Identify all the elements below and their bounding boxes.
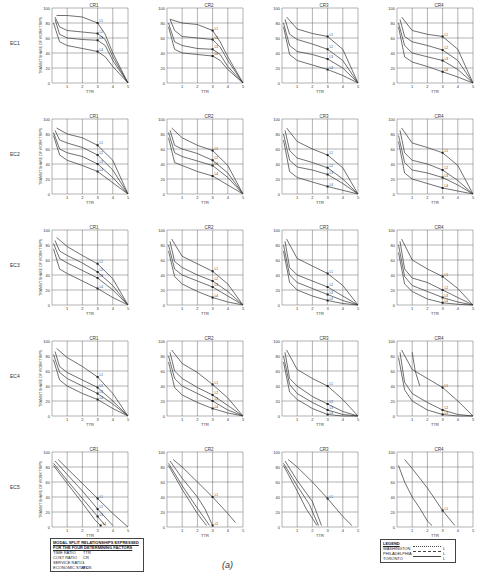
x-tick-label: 1 [181, 195, 184, 200]
chart-panel: 02040608010012345TTRTRANSIT SHARE OF WOR… [32, 226, 127, 321]
series-line [55, 461, 113, 526]
chart-panel: 02040608010012345TTRCR2L1L2L3L4 [147, 337, 242, 432]
series-line [54, 136, 129, 195]
y-tick-label: 100 [43, 450, 50, 455]
y-tick-label: 60 [46, 369, 51, 374]
data-marker [442, 387, 444, 389]
x-tick-label: 5 [472, 84, 475, 89]
x-tick-label: 2 [311, 84, 314, 89]
data-marker [327, 186, 329, 188]
x-tick-label: 1 [411, 417, 414, 422]
row-label: EC5 [10, 484, 20, 490]
series-label: L3 [215, 283, 219, 287]
x-tick-label: 2 [426, 306, 429, 311]
y-tick-label: 80 [46, 465, 51, 470]
series-line [285, 352, 358, 416]
series-label: L1 [215, 493, 219, 497]
series-line [399, 136, 474, 195]
y-tick-label: 100 [273, 339, 280, 344]
y-tick-label: 60 [391, 369, 396, 374]
y-tick-label: 100 [388, 228, 395, 233]
data-marker [97, 171, 99, 173]
chart-title: CR3 [319, 336, 328, 341]
y-tick-label: 100 [388, 339, 395, 344]
data-marker [97, 22, 99, 24]
x-tick-label: 5 [127, 528, 130, 533]
row-label: EC1 [10, 40, 20, 46]
chart-title: CR2 [204, 225, 213, 230]
x-tick-label: 4 [112, 84, 115, 89]
data-marker [97, 263, 99, 265]
series-label: L4 [445, 299, 449, 303]
y-tick-label: 20 [46, 288, 51, 293]
data-marker [442, 36, 444, 38]
y-tick-label: 40 [46, 495, 51, 500]
y-tick-label: 40 [161, 162, 166, 167]
legend-entry: TORONTOL [383, 556, 453, 561]
chart-title: CR1 [89, 225, 98, 230]
y-tick-label: 40 [391, 162, 396, 167]
series-line [55, 19, 128, 83]
y-tick-label: 20 [391, 177, 396, 182]
y-tick-label: 100 [273, 117, 280, 122]
y-tick-label: 80 [276, 354, 281, 359]
x-tick-label: 4 [457, 417, 460, 422]
chart-panel: 02040608010012345TTRCR2L1L2L3L4 [147, 4, 242, 99]
series-line [169, 133, 244, 195]
y-tick-label: 0 [163, 81, 166, 86]
y-tick-label: 60 [161, 36, 166, 41]
x-tick-label: 4 [227, 306, 230, 311]
x-axis-label: TTR [431, 533, 439, 538]
series-label: L1 [445, 507, 449, 511]
series-label: L4 [215, 294, 219, 298]
x-tick-label: 5 [357, 417, 360, 422]
x-tick-label: 1 [296, 84, 299, 89]
x-tick-label: 2 [426, 84, 429, 89]
y-tick-label: 40 [46, 273, 51, 278]
x-axis-label: TTR [316, 200, 324, 205]
series-line [169, 27, 244, 83]
series-label: L3 [330, 291, 334, 295]
series-label: L1 [215, 147, 219, 151]
y-tick-label: 100 [43, 228, 50, 233]
chart-title: CR2 [204, 447, 213, 452]
x-tick-label: 1 [411, 195, 414, 200]
chart-title: CR1 [89, 3, 98, 8]
chart-title: CR4 [434, 336, 443, 341]
series-label: L2 [100, 30, 104, 34]
y-tick-label: 20 [391, 399, 396, 404]
x-tick-label: 4 [342, 195, 345, 200]
series-label: L1 [100, 373, 104, 377]
series-line [399, 466, 433, 526]
series-line [54, 355, 129, 417]
row-label: EC3 [10, 262, 20, 268]
data-marker [442, 71, 444, 73]
x-tick-label: 2 [196, 195, 199, 200]
series-label: L2 [215, 522, 219, 526]
chart-title: CR4 [434, 447, 443, 452]
y-tick-label: 80 [161, 21, 166, 26]
y-tick-label: 40 [161, 273, 166, 278]
x-tick-label: 2 [426, 195, 429, 200]
data-marker [327, 58, 329, 60]
x-tick-label: 2 [81, 528, 84, 533]
data-marker [442, 409, 444, 411]
x-tick-label: 2 [81, 84, 84, 89]
data-marker [97, 277, 99, 279]
y-tick-label: 60 [276, 36, 281, 41]
y-tick-label: 40 [46, 162, 51, 167]
x-axis-label: TTR [201, 89, 209, 94]
x-tick-label: 3 [326, 306, 329, 311]
x-tick-label: 1 [66, 84, 69, 89]
data-marker [442, 169, 444, 171]
x-axis-label: TTR [431, 89, 439, 94]
y-tick-label: 0 [278, 81, 281, 86]
series-line [54, 466, 101, 526]
data-marker [97, 376, 99, 378]
x-axis-label: TTR [86, 89, 94, 94]
series-label: L2 [215, 156, 219, 160]
series-label: L2 [330, 400, 334, 404]
y-tick-label: 100 [158, 339, 165, 344]
series-label: L4 [103, 522, 107, 526]
figure-caption: (a) [222, 560, 233, 570]
